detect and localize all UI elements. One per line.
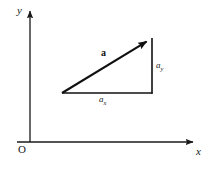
diagram-canvas [0,0,212,169]
vector-diagram-figure: y x O a ax ay [0,0,212,169]
y-axis-label: y [17,5,22,16]
x-axis-label: x [196,146,201,157]
y-component-label-subscript: y [161,65,164,72]
y-component-label: ay [156,61,163,70]
x-component-label: ax [99,95,106,104]
x-component-label-subscript: x [104,99,107,106]
origin-label: O [18,144,26,155]
resultant-vector-label: a [101,48,106,58]
